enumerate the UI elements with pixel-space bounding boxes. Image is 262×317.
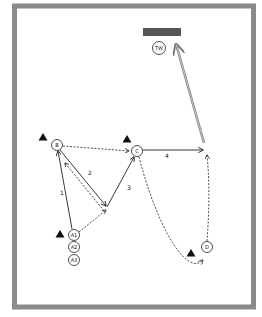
player-a1: A1 [69,230,80,241]
player-label: A2 [71,244,78,250]
player-label: A3 [71,257,78,263]
step-label: 3 [127,184,131,191]
drill-diagram: TWBCA1A2A3D 1234 [0,0,262,317]
player-a3: A3 [69,255,80,266]
player-label: C [135,148,139,154]
field-frame [15,6,254,307]
player-a2: A2 [69,242,80,253]
player-label: D [205,244,209,250]
player-d: D [202,242,213,253]
player-tw: TW [153,42,166,55]
player-label: TW [154,45,163,51]
step-label: 2 [88,169,92,176]
player-label: B [55,142,59,148]
step-label: 1 [60,189,64,196]
player-b: B [52,140,63,151]
player-label: A1 [71,232,78,238]
goal [143,28,181,36]
step-label: 4 [165,152,169,159]
player-c: C [132,146,143,157]
